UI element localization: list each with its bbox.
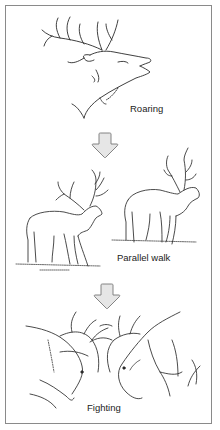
stage-label-fighting: Fighting [87,402,121,413]
stage-label-parallel-walk: Parallel walk [117,252,170,263]
stag-roaring-illustration [0,0,220,430]
down-arrow-icon [91,132,119,160]
stage-label-roaring: Roaring [130,103,163,114]
down-arrow-icon [93,283,121,311]
